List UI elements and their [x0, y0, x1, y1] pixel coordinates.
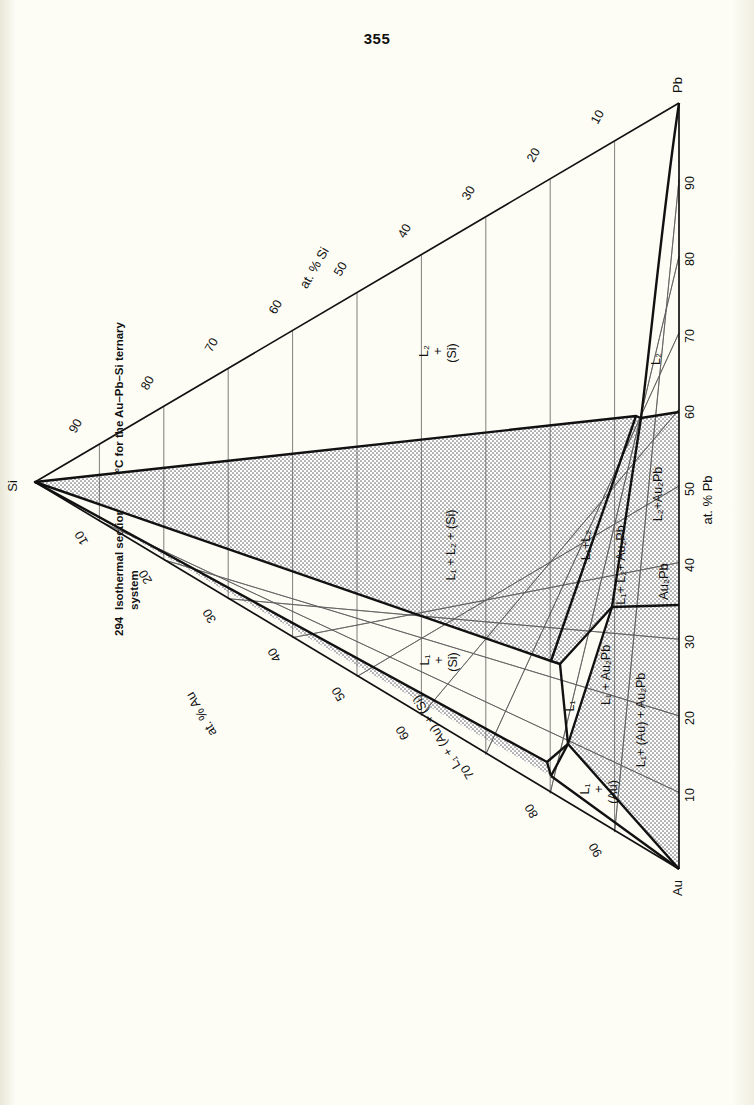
- tick-labels-pb: 10 20 30 40 50 60 70 80 90: [683, 176, 697, 802]
- tick-pb-20: 20: [683, 711, 697, 725]
- tick-pb-80: 80: [683, 252, 697, 266]
- diagram-svg: Si Pb Au at. % Si at. % Pb at. % Au 90 8…: [0, 0, 754, 1105]
- corner-label-pb: Pb: [670, 77, 685, 93]
- phase-label-l1-si-3: (Si): [446, 652, 460, 671]
- tick-au-20: 20: [136, 567, 155, 586]
- tick-si-80: 80: [138, 373, 157, 392]
- phase-label-l1-au-1: L₁: [578, 783, 592, 794]
- corner-label-si: Si: [5, 480, 20, 492]
- tick-au-50: 50: [329, 684, 348, 703]
- tick-si-30: 30: [459, 183, 478, 202]
- tick-au-30: 30: [200, 606, 219, 625]
- axis-title-si: at. % Si: [296, 245, 331, 291]
- tick-pb-10: 10: [683, 788, 697, 802]
- boundary-l1au: [551, 744, 568, 776]
- phase-label-l1-au-3: (Au): [606, 780, 620, 804]
- phase-label-l2-si-1: L₂: [417, 345, 431, 357]
- tick-au-90: 90: [586, 840, 605, 859]
- tick-si-60: 60: [266, 297, 285, 316]
- tick-pb-90: 90: [683, 176, 697, 190]
- tick-pb-40: 40: [683, 558, 697, 572]
- phase-label-l1-au-2: +: [592, 785, 606, 792]
- phase-label-l2-right: L₂: [649, 353, 663, 365]
- tick-au-10: 10: [72, 528, 91, 547]
- phase-label-l1-l2-si: L₁ + L₂ + (Si): [444, 510, 458, 581]
- tick-si-90: 90: [66, 416, 85, 435]
- tick-au-40: 40: [265, 645, 284, 664]
- phase-label-l2-si-3: (Si): [445, 343, 459, 362]
- compound-labels: Au₂Pb: [656, 563, 671, 600]
- phase-label-l1-si-1: L₁: [418, 654, 432, 665]
- book-page: 355 294Isothermal section at 350°C for t…: [0, 0, 754, 1105]
- tick-pb-70: 70: [683, 329, 697, 343]
- tick-si-50: 50: [331, 259, 350, 278]
- tick-si-40: 40: [395, 221, 414, 240]
- phase-label-l2-au2pb: L₂+Au₂Pb: [651, 467, 665, 522]
- corner-label-au: Au: [670, 880, 685, 896]
- tick-pb-60: 60: [683, 405, 697, 419]
- tick-au-80: 80: [522, 801, 541, 820]
- phase-label-l1-au-au2pb: L₁+ (Au) + Au₂Pb: [634, 673, 648, 768]
- tick-labels-si: 90 80 70 60 50 40 30 20 10: [66, 107, 607, 435]
- ternary-phase-diagram: Si Pb Au at. % Si at. % Pb at. % Au 90 8…: [0, 0, 754, 1105]
- phase-label-l2-si-2: +: [431, 347, 445, 354]
- axis-title-pb: at. % Pb: [700, 475, 715, 524]
- tick-pb-30: 30: [683, 635, 697, 649]
- phase-label-l1-l2-au2pb: L₁+ L₂+ Au₂Pb: [614, 525, 628, 604]
- phase-label-l1-si-2: +: [432, 656, 446, 663]
- tick-si-10: 10: [588, 107, 607, 126]
- tick-pb-50: 50: [683, 482, 697, 496]
- tick-si-70: 70: [202, 335, 221, 354]
- phase-label-l1-l2: L₁+L₂: [579, 530, 593, 560]
- tick-au-60: 60: [393, 723, 412, 742]
- phase-label-l1-au2pb: L₁ + Au₂Pb: [599, 645, 613, 705]
- phase-label-l1-left: L₁: [563, 700, 577, 711]
- compound-label-au2pb: Au₂Pb: [656, 563, 671, 600]
- axis-title-au: at. % Au: [183, 690, 220, 739]
- tick-si-20: 20: [524, 145, 543, 164]
